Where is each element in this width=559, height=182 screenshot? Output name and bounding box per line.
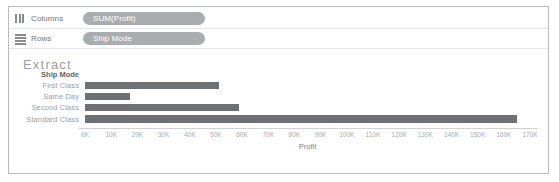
worksheet-canvas: Extract Ship Mode First ClassSame DaySec… <box>9 49 548 175</box>
x-axis-tick-label: 170K <box>522 131 537 138</box>
row-label[interactable]: Same Day <box>9 92 79 101</box>
x-axis-tick-label: 80K <box>289 131 301 138</box>
x-axis-tick-label: 70K <box>262 131 274 138</box>
worksheet-frame: Columns SUM(Profit) Rows Ship Mode Extra… <box>8 6 549 174</box>
x-axis-tick-label: 10K <box>105 131 117 138</box>
x-axis-tick-label: 140K <box>444 131 459 138</box>
x-axis-tick-label: 100K <box>339 131 354 138</box>
pill-ship-mode[interactable]: Ship Mode <box>83 32 205 45</box>
bar[interactable] <box>85 104 239 112</box>
x-axis-tick-label: 150K <box>470 131 485 138</box>
x-axis-tick-label: 40K <box>184 131 196 138</box>
columns-shelf-label: Columns <box>31 14 83 23</box>
x-axis-title: Profit <box>299 142 317 151</box>
x-axis-tick-label: 90K <box>315 131 327 138</box>
x-axis-tick-label: 120K <box>392 131 407 138</box>
columns-shelf[interactable]: Columns SUM(Profit) <box>9 9 548 29</box>
x-axis-tick-label: 50K <box>210 131 222 138</box>
bar[interactable] <box>85 93 130 101</box>
rows-shelf-label: Rows <box>31 34 83 43</box>
rows-icon <box>15 33 26 44</box>
rows-shelf[interactable]: Rows Ship Mode <box>9 29 548 49</box>
row-label[interactable]: First Class <box>9 81 79 90</box>
x-axis-tick-label: 130K <box>418 131 433 138</box>
row-label[interactable]: Second Class <box>9 103 79 112</box>
x-axis-tick-label: 30K <box>158 131 170 138</box>
x-axis-tick-label: 160K <box>496 131 511 138</box>
x-axis-tick-label: 110K <box>366 131 381 138</box>
row-label[interactable]: Standard Class <box>9 115 79 124</box>
row-header-title: Ship Mode <box>9 70 79 79</box>
x-axis-line <box>79 128 538 129</box>
x-axis-tick-label: 0K <box>81 131 89 138</box>
bar-chart: Ship Mode First ClassSame DaySecond Clas… <box>9 49 548 175</box>
pill-sum-profit[interactable]: SUM(Profit) <box>83 12 205 25</box>
x-axis-tick-label: 60K <box>236 131 248 138</box>
columns-icon <box>15 13 26 24</box>
x-axis-tick-label: 20K <box>132 131 144 138</box>
bar[interactable] <box>85 115 517 123</box>
bar[interactable] <box>85 82 219 90</box>
